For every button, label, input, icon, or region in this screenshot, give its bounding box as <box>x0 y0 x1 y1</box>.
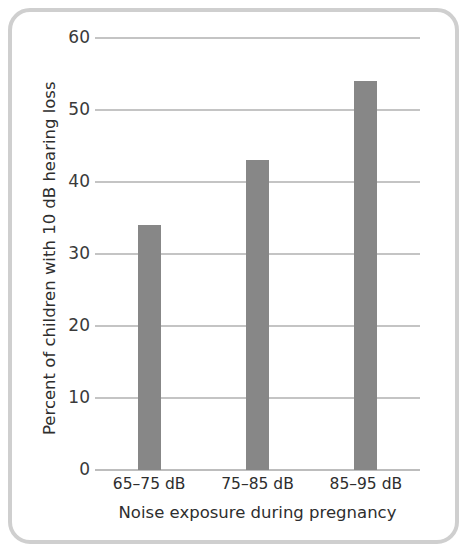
y-axis-title: Percent of children with 10 dB hearing l… <box>42 48 59 468</box>
x-axis-title: Noise exposure during pregnancy <box>95 505 420 522</box>
y-axis-tick-label: 0 <box>56 461 90 478</box>
y-axis-tick-label: 10 <box>56 389 90 406</box>
y-axis-tick-label: 60 <box>56 29 90 46</box>
bar-chart: 0102030405060 65–75 dB75–85 dB85–95 dB N… <box>0 0 471 554</box>
bar <box>354 81 377 470</box>
y-axis-tick-label: 20 <box>56 317 90 334</box>
bar <box>246 160 269 470</box>
x-axis-tick-label: 75–85 dB <box>198 477 318 493</box>
bar <box>138 225 161 470</box>
gridline <box>95 37 420 39</box>
x-axis-tick-label: 85–95 dB <box>306 477 426 493</box>
y-axis-tick-label: 50 <box>56 101 90 118</box>
y-axis-tick-label: 40 <box>56 173 90 190</box>
y-axis-tick-label: 30 <box>56 245 90 262</box>
x-axis-tick-label: 65–75 dB <box>89 477 209 493</box>
